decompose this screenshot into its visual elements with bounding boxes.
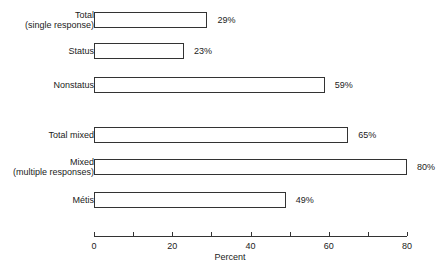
x-axis-tick [172, 232, 173, 236]
category-label: Mixed (multiple responses) [13, 157, 94, 177]
x-tick-label: 40 [241, 241, 261, 251]
bar [94, 12, 207, 28]
value-label: 59% [335, 80, 353, 90]
x-axis-tick [211, 232, 212, 236]
category-label: Nonstatus [53, 80, 94, 90]
category-label: Status [68, 46, 94, 56]
value-label: 65% [358, 130, 376, 140]
x-axis-tick [290, 232, 291, 236]
x-axis-tick [133, 232, 134, 236]
x-tick-label: 0 [84, 241, 104, 251]
category-label: Total mixed [48, 130, 94, 140]
x-tick-label: 80 [397, 241, 417, 251]
x-tick-label: 20 [162, 241, 182, 251]
x-axis-tick [368, 232, 369, 236]
x-axis-tick [251, 232, 252, 236]
bar [94, 192, 286, 208]
bar [94, 77, 325, 93]
bar-chart: Total (single response)29%Status23%Nonst… [0, 0, 439, 262]
value-label: 49% [296, 195, 314, 205]
bar [94, 159, 407, 175]
bar [94, 43, 184, 59]
value-label: 80% [417, 162, 435, 172]
x-axis-line [94, 236, 407, 237]
x-axis-title: Percent [210, 252, 250, 262]
x-tick-label: 60 [319, 241, 339, 251]
x-axis-tick [94, 232, 95, 236]
x-axis-tick [329, 232, 330, 236]
value-label: 29% [217, 15, 235, 25]
value-label: 23% [194, 46, 212, 56]
category-label: Total (single response) [25, 10, 94, 30]
category-label: Métis [72, 195, 94, 205]
bar [94, 127, 348, 143]
x-axis-tick [407, 232, 408, 236]
